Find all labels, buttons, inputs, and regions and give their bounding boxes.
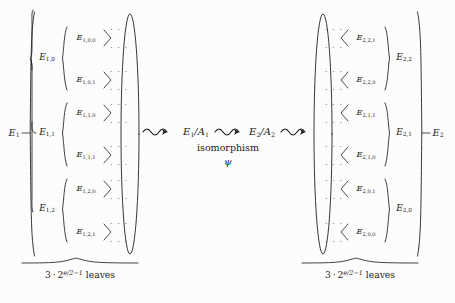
node-label-E2-0-0: E2,0,0 — [356, 227, 375, 237]
right-brace-node-2-1 — [385, 103, 390, 166]
node-label-E1-0: E1,0 — [39, 53, 55, 63]
leaf-dots-left-6: · · · — [110, 118, 128, 127]
left-leaf-braces — [104, 30, 111, 240]
right-underbrace — [302, 258, 418, 263]
leaf-dots-left-10: · · · — [110, 194, 128, 203]
node-label-E1-2-1: E1,2,1 — [76, 227, 95, 237]
figure-canvas: E1 E1,0 E1,1 E1,2 E1,0,0 E1,0,1 E1,1,0 E… — [0, 0, 455, 303]
leaf-dots-right-1: · · · — [325, 25, 343, 34]
node-label-E2: E2 — [433, 128, 444, 139]
leaf-dots-left-5: · · · — [110, 100, 128, 109]
leaf-dots-right-6: · · · — [325, 118, 343, 127]
quotient-E1-A1: E1/A1 — [183, 126, 209, 138]
leaf-dots-right-2: · · · — [325, 43, 343, 52]
leaf-dots-right-9: · · · — [325, 176, 343, 185]
node-label-E1: E1 — [9, 128, 20, 139]
node-label-E2-1: E2,1 — [396, 128, 412, 138]
leaf-dots-left-3: · · · — [110, 67, 128, 76]
leaf-dots-right-8: · · · — [325, 160, 343, 169]
right-brace-node-2-2 — [385, 27, 390, 90]
node-label-E1-2: E1,2 — [39, 204, 55, 214]
node-label-E1-0-1: E1,0,1 — [76, 75, 95, 85]
leaf-dots-left-1: · · · — [110, 25, 128, 34]
right-root-brace-main — [418, 12, 422, 256]
node-label-E1-0-0: E1,0,0 — [76, 33, 95, 43]
node-label-E2-2: E2,2 — [396, 53, 412, 63]
psi-symbol: ψ — [224, 156, 232, 167]
isomorphism-caption: isomorphism — [197, 142, 259, 153]
left-brace-node-1-1 — [63, 103, 68, 166]
leaf-dots-right-4: · · · — [325, 85, 343, 94]
right-brace-node-2-0 — [385, 179, 390, 242]
left-brace-node-1-0 — [63, 27, 68, 90]
node-label-E2-1-1: E2,1,1 — [356, 108, 375, 118]
quotient-E2-A2: E2/A2 — [249, 126, 275, 138]
leaf-dots-left-12: · · · — [110, 237, 128, 246]
right-leaves-count-label: 3 · 2e/2−1 leaves — [325, 269, 395, 280]
leaf-dots-right-3: · · · — [325, 67, 343, 76]
leaf-dots-right-11: · · · — [325, 219, 343, 228]
node-label-E1-1-0: E1,1,0 — [76, 108, 95, 118]
node-label-E2-2-0: E2,2,0 — [356, 75, 375, 85]
leaf-dots-left-11: · · · — [110, 219, 128, 228]
left-leaves-count-label: 3 · 2e/2−1 leaves — [45, 269, 115, 280]
leaf-dots-right-7: · · · — [325, 142, 343, 151]
leaf-dots-left-8: · · · — [110, 160, 128, 169]
node-label-E2-1-0: E2,1,0 — [356, 150, 375, 160]
node-label-E1-1-1: E1,1,1 — [76, 150, 95, 160]
leaf-dots-right-5: · · · — [325, 100, 343, 109]
left-underbrace — [22, 258, 138, 263]
leaf-dots-left-4: · · · — [110, 85, 128, 94]
leaf-dots-right-10: · · · — [325, 194, 343, 203]
node-label-E1-2-0: E1,2,0 — [76, 184, 95, 194]
node-label-E1-1: E1,1 — [39, 128, 55, 138]
node-label-E2-0: E2,0 — [396, 204, 412, 214]
leaf-dots-left-7: · · · — [110, 142, 128, 151]
leaf-dots-right-12: · · · — [325, 237, 343, 246]
left-brace-node-1-2 — [63, 179, 68, 242]
leaf-dots-left-9: · · · — [110, 176, 128, 185]
right-leaf-braces — [341, 30, 348, 240]
leaf-dots-left-2: · · · — [110, 43, 128, 52]
node-label-E2-2-1: E2,2,1 — [356, 33, 375, 43]
node-label-E2-0-1: E2,0,1 — [356, 184, 375, 194]
